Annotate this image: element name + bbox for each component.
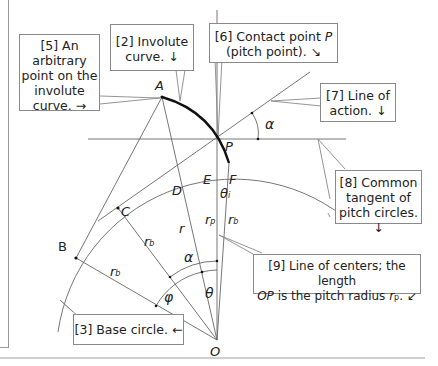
callout-arbitrary-point: [5] An arbitrary point on the involute c… bbox=[19, 34, 100, 111]
leader-9 bbox=[219, 235, 262, 254]
point-D-label: D bbox=[172, 184, 182, 197]
point-B-label: B bbox=[58, 240, 67, 253]
alpha-arc-top bbox=[252, 113, 258, 139]
rb-label-F: rb bbox=[228, 213, 238, 228]
alpha-center-label: α bbox=[184, 251, 193, 264]
leader-6 bbox=[215, 58, 222, 138]
leader-7 bbox=[271, 98, 321, 106]
phi-label: φ bbox=[164, 291, 173, 304]
point-A-label: A bbox=[155, 79, 164, 92]
callout-line-of-action: [7] Line of action. ↓ bbox=[320, 83, 396, 122]
rb-label-C: rb bbox=[144, 235, 154, 250]
theta-i-label: θi bbox=[220, 187, 230, 202]
line-of-action bbox=[98, 72, 310, 221]
rp-label: rp bbox=[205, 213, 215, 228]
involute-curve bbox=[162, 97, 229, 163]
point-E-label: E bbox=[203, 173, 211, 186]
leader-5 bbox=[100, 96, 160, 104]
bottom-divider bbox=[0, 357, 425, 359]
point-F-label: F bbox=[229, 173, 236, 186]
leader-2 bbox=[176, 70, 185, 101]
callout-involute-curve: [2] Involute curve. ↓ bbox=[110, 24, 194, 71]
theta-arc bbox=[202, 270, 217, 272]
point-C-label: C bbox=[121, 205, 130, 218]
rb-label-B: rb bbox=[110, 265, 120, 280]
callout-contact-point: [6] Contact point P (pitch point). ↘ bbox=[209, 23, 338, 63]
r-label: r bbox=[179, 222, 184, 235]
point-P-label: P bbox=[225, 140, 233, 153]
callout-base-circle: [3] Base circle. ← bbox=[73, 314, 184, 345]
theta-label: θ bbox=[205, 287, 214, 300]
callout-common-tangent: [8] Common tangent of pitch circles. ↓ bbox=[335, 170, 422, 224]
leader-8-arc bbox=[328, 213, 330, 217]
alpha-top-label: α bbox=[265, 118, 274, 131]
callout-line-of-centers: [9] Line of centers; the length OP is th… bbox=[253, 254, 421, 294]
